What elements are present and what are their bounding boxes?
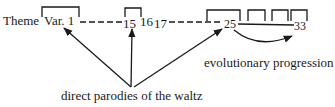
label-theme: Theme: [3, 14, 39, 27]
arrow-to-var1: [64, 28, 131, 87]
label-evolutionary-progression: evolutionary progression: [204, 56, 334, 69]
label-15: 15: [123, 17, 136, 30]
line-25-33: [238, 24, 294, 25]
curved-arrow: [234, 30, 292, 42]
arrow-to-15: [131, 29, 132, 87]
label-var1: Var. 1: [44, 14, 74, 27]
bracket-c: [272, 10, 288, 21]
bracket-b: [248, 10, 265, 21]
label-17: 17: [154, 17, 167, 30]
label-16: 16: [140, 15, 153, 28]
label-direct-parodies: direct parodies of the waltz: [61, 89, 203, 102]
label-25: 25: [224, 18, 236, 30]
label-33: 33: [294, 20, 306, 32]
